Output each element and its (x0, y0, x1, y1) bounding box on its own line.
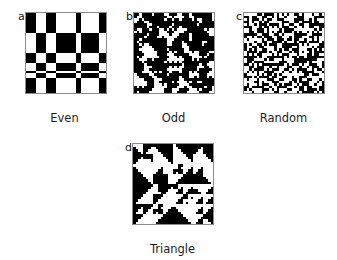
pattern-image-triangle (133, 144, 213, 224)
panel-caption-even: Even (17, 113, 112, 125)
pattern-frame-random (243, 12, 325, 94)
figure-root: a Even b Odd c Random d Triangle (0, 0, 337, 260)
pattern-image-odd (134, 13, 214, 93)
panel-letter-c: c (236, 11, 242, 22)
panel-letter-a: a (18, 11, 25, 22)
panel-caption-triangle: Triangle (125, 244, 220, 256)
panel-letter-b: b (126, 11, 133, 22)
panel-caption-random: Random (236, 113, 331, 125)
panel-random: c Random (236, 9, 331, 131)
pattern-frame-odd (133, 12, 215, 94)
pattern-frame-even (25, 12, 107, 94)
panel-letter-d: d (125, 142, 132, 153)
panel-odd: b Odd (126, 9, 221, 131)
panel-triangle: d Triangle (125, 140, 220, 260)
pattern-image-random (244, 13, 324, 93)
panel-even: a Even (17, 9, 112, 131)
panel-caption-odd: Odd (126, 113, 221, 125)
pattern-image-even (26, 13, 106, 93)
pattern-frame-triangle (132, 143, 214, 225)
